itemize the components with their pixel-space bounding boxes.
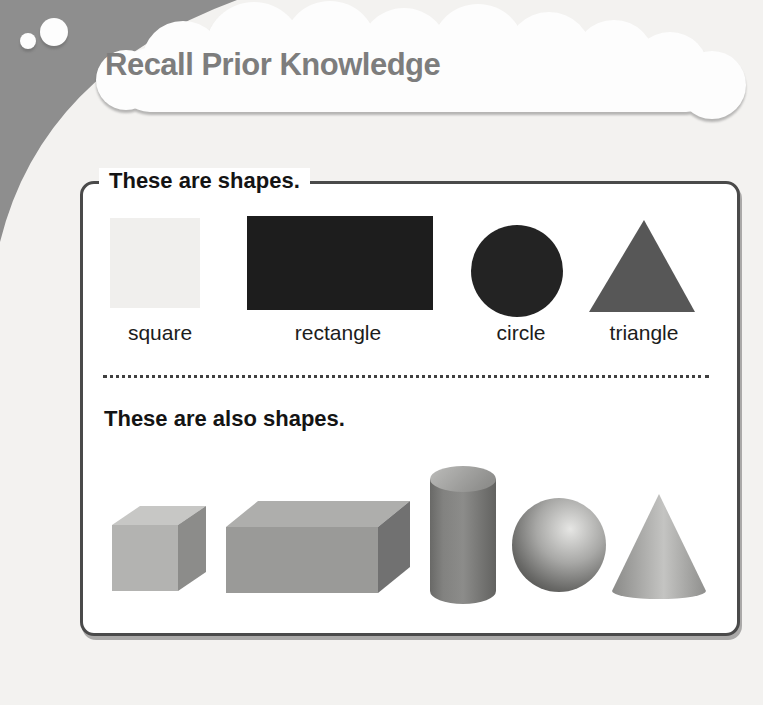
circle-shape <box>471 225 563 317</box>
thought-dot-small <box>20 33 36 49</box>
triangle-shape <box>589 220 695 312</box>
cone-figure <box>612 494 706 599</box>
section-2d-title: These are shapes. <box>99 168 310 194</box>
rectangle-shape <box>247 216 433 310</box>
rectangular-prism-figure <box>226 501 410 593</box>
section-3d-title: These are also shapes. <box>104 406 345 432</box>
sphere-figure <box>512 498 606 592</box>
thought-dot-large <box>40 18 68 46</box>
solid-shapes-figure <box>95 455 715 605</box>
square-shape <box>110 218 200 308</box>
section-divider <box>103 375 709 378</box>
page-title: Recall Prior Knowledge <box>105 47 525 83</box>
shape-label-triangle: triangle <box>610 321 679 345</box>
shape-label-circle: circle <box>496 321 545 345</box>
cube-figure <box>112 506 206 591</box>
textbook-page: Recall Prior Knowledge These are shapes.… <box>0 0 763 705</box>
cylinder-figure <box>430 466 496 604</box>
shapes-panel: These are shapes. square rectangle circl… <box>80 181 740 636</box>
shape-label-rectangle: rectangle <box>295 321 381 345</box>
shape-label-square: square <box>128 321 192 345</box>
